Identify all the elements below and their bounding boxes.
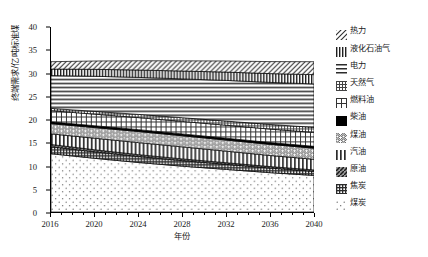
legend-item[interactable]: 燃料油	[336, 91, 428, 108]
legend-swatch-icon	[336, 60, 347, 70]
plot-area	[50, 27, 314, 213]
y-tick-label: 40	[28, 23, 37, 32]
y-tick-label: 30	[28, 69, 37, 78]
x-tick-mark	[226, 213, 227, 217]
x-tick-label: 2036	[261, 220, 278, 229]
figure: 0510152025303540 终端需求/亿吨标准煤	[0, 0, 428, 257]
y-tick-label: 15	[28, 139, 37, 148]
legend-swatch-icon	[336, 197, 347, 207]
legend-item[interactable]: 天然气	[336, 74, 428, 91]
legend: 热力液化石油气电力天然气燃料油柴油煤油汽油原油焦炭煤炭	[336, 22, 428, 211]
legend-item[interactable]: 电力	[336, 56, 428, 73]
x-tick-label: 2040	[305, 220, 322, 229]
legend-label: 汽油	[350, 147, 366, 155]
legend-label: 柴油	[350, 112, 366, 120]
x-tick-mark-minor	[149, 213, 150, 215]
legend-swatch-icon	[336, 26, 347, 36]
legend-label: 焦炭	[350, 181, 366, 189]
legend-item[interactable]: 煤炭	[336, 194, 428, 211]
legend-label: 原油	[350, 164, 366, 172]
legend-swatch-icon	[336, 112, 347, 122]
stacked-area-series	[51, 27, 314, 212]
legend-label: 煤油	[350, 130, 366, 138]
legend-item[interactable]: 热力	[336, 22, 428, 39]
x-tick-mark-minor	[215, 213, 216, 215]
legend-label: 液化石油气	[350, 44, 390, 52]
x-tick-mark-minor	[127, 213, 128, 215]
legend-swatch-icon	[336, 94, 347, 104]
legend-swatch-icon	[336, 77, 347, 87]
x-tick-mark-minor	[105, 213, 106, 215]
x-tick-mark-minor	[259, 213, 260, 215]
x-tick-mark-minor	[204, 213, 205, 215]
x-tick-mark-minor	[237, 213, 238, 215]
x-tick-mark-minor	[193, 213, 194, 215]
legend-item[interactable]: 煤油	[336, 125, 428, 142]
x-tick-mark-minor	[160, 213, 161, 215]
x-tick-label: 2016	[41, 220, 58, 229]
x-tick-mark-minor	[303, 213, 304, 215]
x-tick-mark-minor	[61, 213, 62, 215]
y-axis-label: 终端需求/亿吨标准煤	[8, 0, 20, 138]
x-tick-mark	[182, 213, 183, 217]
y-tick-label: 10	[28, 162, 37, 171]
x-tick-mark-minor	[72, 213, 73, 215]
legend-label: 电力	[350, 61, 366, 69]
y-tick-label: 5	[33, 185, 37, 194]
x-tick-label: 2032	[217, 220, 234, 229]
y-tick-label: 20	[28, 116, 37, 125]
x-tick-mark	[270, 213, 271, 217]
legend-label: 热力	[350, 26, 366, 34]
x-tick-mark	[50, 213, 51, 217]
legend-swatch-icon	[336, 146, 347, 156]
legend-swatch-icon	[336, 43, 347, 53]
x-tick-mark-minor	[248, 213, 249, 215]
x-tick-label: 2020	[85, 220, 102, 229]
x-tick-mark-minor	[171, 213, 172, 215]
legend-swatch-icon	[336, 163, 347, 173]
x-tick-label: 2024	[129, 220, 146, 229]
legend-item[interactable]: 原油	[336, 160, 428, 177]
x-tick-mark	[94, 213, 95, 217]
legend-swatch-icon	[336, 180, 347, 190]
x-tick-mark-minor	[83, 213, 84, 215]
legend-label: 煤炭	[350, 198, 366, 206]
legend-swatch-icon	[336, 129, 347, 139]
x-tick-label: 2028	[173, 220, 190, 229]
x-tick-mark-minor	[292, 213, 293, 215]
legend-label: 天然气	[350, 78, 374, 86]
legend-label: 燃料油	[350, 95, 374, 103]
x-tick-mark	[138, 213, 139, 217]
legend-item[interactable]: 柴油	[336, 108, 428, 125]
y-tick-label: 25	[28, 92, 37, 101]
legend-item[interactable]: 焦炭	[336, 177, 428, 194]
y-tick-label: 0	[33, 209, 37, 218]
x-tick-mark-minor	[281, 213, 282, 215]
legend-item[interactable]: 液化石油气	[336, 39, 428, 56]
legend-item[interactable]: 汽油	[336, 142, 428, 159]
x-tick-mark	[314, 213, 315, 217]
y-tick-label: 35	[28, 46, 37, 55]
x-axis-label: 年份	[50, 229, 314, 241]
x-tick-mark-minor	[116, 213, 117, 215]
